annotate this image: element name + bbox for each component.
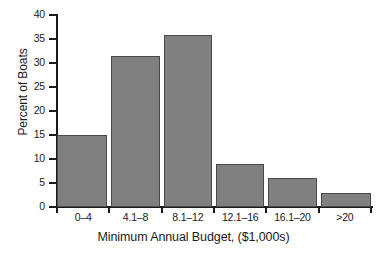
- y-tick-mark: [49, 110, 56, 112]
- x-tick-label: 0–4: [57, 212, 109, 223]
- bar: [57, 135, 107, 207]
- bar: [111, 56, 159, 207]
- x-tick-label: 16.1–20: [266, 212, 318, 223]
- x-axis-title: Minimum Annual Budget, ($1,000s): [0, 231, 387, 244]
- x-tick-label: 8.1–12: [162, 212, 214, 223]
- y-tick-mark: [49, 86, 56, 88]
- bar: [164, 35, 212, 207]
- y-tick-label: 15: [5, 129, 45, 140]
- x-tick-label: >20: [319, 212, 371, 223]
- x-tick-mark: [56, 208, 58, 213]
- y-tick-label: 20: [5, 105, 45, 116]
- y-tick-label: 10: [5, 153, 45, 164]
- y-tick-label: 0: [5, 201, 45, 212]
- plot-area: [57, 15, 371, 207]
- x-tick-label: 4.1–8: [109, 212, 161, 223]
- y-tick-mark: [49, 38, 56, 40]
- y-tick-label: 40: [5, 9, 45, 20]
- x-tick-label: 12.1–16: [214, 212, 266, 223]
- y-tick-label: 5: [5, 177, 45, 188]
- y-tick-mark: [49, 158, 56, 160]
- y-tick-mark: [49, 62, 56, 64]
- bar: [268, 178, 316, 207]
- y-tick-label: 30: [5, 57, 45, 68]
- y-tick-mark: [49, 14, 56, 16]
- bar: [216, 164, 264, 207]
- y-tick-mark: [49, 206, 56, 208]
- y-tick-mark: [49, 182, 56, 184]
- bar-chart-figure: Percent of Boats 0510152025303540 0–44.1…: [0, 0, 387, 257]
- y-tick-label: 35: [5, 33, 45, 44]
- y-tick-label: 25: [5, 81, 45, 92]
- bar: [321, 193, 371, 207]
- y-tick-mark: [49, 134, 56, 136]
